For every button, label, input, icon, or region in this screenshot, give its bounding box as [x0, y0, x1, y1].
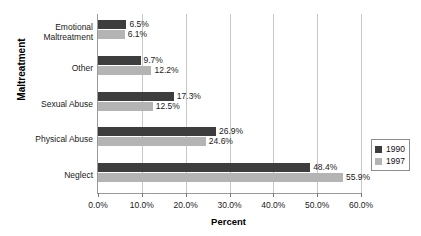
bar-value-label: 26.9% — [216, 127, 243, 136]
legend-label: 1997 — [386, 157, 405, 166]
bar — [98, 20, 126, 29]
bar-value-label: 12.5% — [153, 102, 180, 111]
legend-item[interactable]: 1990 — [375, 143, 405, 155]
category-label: Other — [18, 63, 93, 73]
category-label-line: Neglect — [18, 170, 93, 180]
category-label-line: Sexual Abuse — [18, 99, 93, 109]
x-axis-tick — [317, 193, 318, 197]
category-label: Sexual Abuse — [18, 99, 93, 109]
bar — [98, 173, 343, 182]
x-axis-tick-label: 40.0% — [253, 200, 293, 210]
category-label: Physical Abuse — [18, 134, 93, 144]
bar — [98, 127, 216, 136]
bar-value-label: 12.2% — [151, 66, 178, 75]
x-axis-tick — [186, 193, 187, 197]
bar-value-label: 55.9% — [343, 173, 370, 182]
bar-value-label: 48.4% — [310, 163, 337, 172]
plot-area: 0.0%10.0%20.0%30.0%40.0%50.0%60.0%6.5%6.… — [97, 14, 361, 194]
legend-swatch-icon — [375, 146, 382, 153]
x-axis-tick — [273, 193, 274, 197]
bar-value-label: 6.1% — [125, 30, 147, 39]
legend-swatch-icon — [375, 158, 382, 165]
chart-legend: 19901997 — [371, 139, 410, 171]
bar — [98, 137, 206, 146]
bar-group: 48.4%55.9% — [98, 157, 361, 193]
category-label: Neglect — [18, 170, 93, 180]
bar-chart: Maltreatment EmotionalMaltreatmentOtherS… — [0, 0, 421, 236]
legend-label: 1990 — [386, 145, 405, 154]
bar-value-label: 24.6% — [206, 137, 233, 146]
x-axis-tick — [98, 193, 99, 197]
bar — [98, 92, 174, 101]
x-axis-tick-label: 0.0% — [78, 200, 118, 210]
bar-value-label: 9.7% — [141, 56, 163, 65]
bar-value-label: 17.3% — [174, 92, 201, 101]
x-axis-tick-label: 20.0% — [166, 200, 206, 210]
bar-value-label: 6.5% — [126, 20, 148, 29]
x-axis-tick-label: 60.0% — [341, 200, 381, 210]
legend-item[interactable]: 1997 — [375, 155, 405, 167]
category-label: EmotionalMaltreatment — [18, 22, 93, 42]
category-axis-labels: EmotionalMaltreatmentOtherSexual AbusePh… — [18, 14, 93, 193]
category-label-line: Physical Abuse — [18, 134, 93, 144]
bar — [98, 30, 125, 39]
bar — [98, 66, 151, 75]
x-axis-tick-label: 10.0% — [122, 200, 162, 210]
x-axis-tick — [361, 193, 362, 197]
bar-group: 6.5%6.1% — [98, 14, 361, 50]
x-axis-tick — [142, 193, 143, 197]
category-label-line: Other — [18, 63, 93, 73]
x-axis-tick — [230, 193, 231, 197]
bar — [98, 102, 153, 111]
category-label-line: Emotional — [18, 22, 93, 32]
bar-group: 26.9%24.6% — [98, 121, 361, 157]
bar — [98, 163, 310, 172]
bar-group: 9.7%12.2% — [98, 50, 361, 86]
gridline — [361, 14, 362, 193]
x-axis-tick-label: 30.0% — [210, 200, 250, 210]
bar — [98, 56, 141, 65]
x-axis-tick-label: 50.0% — [297, 200, 337, 210]
bar-group: 17.3%12.5% — [98, 86, 361, 122]
category-label-line: Maltreatment — [18, 32, 93, 42]
x-axis-title: Percent — [97, 216, 360, 227]
